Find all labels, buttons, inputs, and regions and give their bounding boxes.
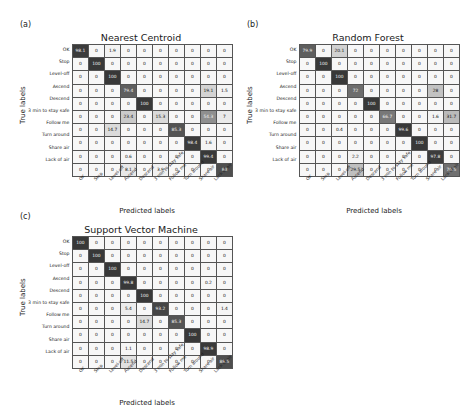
matrix-cell: 0 — [443, 137, 459, 150]
matrix-cell: 0 — [72, 71, 88, 84]
matrix-cell: 0 — [168, 250, 184, 263]
matrix-cell: 0 — [363, 71, 379, 84]
matrix-cell: 0 — [200, 329, 216, 342]
matrix-cell: 0 — [411, 45, 427, 58]
matrix-cell: 0.2 — [200, 276, 216, 289]
matrix-cell: 0 — [152, 237, 168, 250]
matrix-cell: 0 — [315, 124, 331, 137]
y-tick-a-8: Share air — [28, 142, 72, 154]
matrix-cell: 0 — [104, 250, 120, 263]
matrix-cell: 0 — [184, 237, 200, 250]
matrix-cell: 85.3 — [168, 124, 184, 137]
matrix-cell: 0 — [88, 263, 104, 276]
matrix-cell: 79.4 — [120, 84, 136, 97]
matrix-cell: 0 — [136, 263, 152, 276]
matrix-row: 001000000000 — [72, 71, 232, 84]
y-tick-a-3: Ascend — [28, 81, 72, 93]
matrix-cell: 0 — [216, 150, 232, 163]
matrix-cell: 0 — [104, 237, 120, 250]
matrix-cell: 0 — [411, 71, 427, 84]
matrix-cell: 100 — [104, 71, 120, 84]
matrix-cell: 0 — [168, 71, 184, 84]
matrix-cell: 0 — [200, 263, 216, 276]
matrix-cell: 0 — [88, 150, 104, 163]
matrix-cell: 0 — [299, 137, 315, 150]
matrix-cell: 0 — [443, 71, 459, 84]
y-tick-c-2: Level-off — [28, 260, 72, 272]
matrix-cell: 0 — [72, 342, 88, 355]
matrix-cell: 0 — [136, 45, 152, 58]
matrix-cell: 0 — [120, 97, 136, 110]
matrix-cell: 0 — [379, 71, 395, 84]
matrix-row: 000010000000 — [299, 97, 459, 110]
plot-wrap-a: Nearest Centroid True labels OKStopLevel… — [18, 31, 226, 215]
matrix-cell: 0 — [72, 84, 88, 97]
y-tick-labels-c: OKStopLevel-offAscendDescend3 min to sta… — [28, 236, 72, 358]
matrix-cell: 0 — [315, 150, 331, 163]
matrix-cell: 0 — [331, 150, 347, 163]
matrix-cell: 0 — [72, 150, 88, 163]
matrix-cell: 0 — [331, 97, 347, 110]
matrix-cell: 0 — [136, 342, 152, 355]
matrix-cell: 0 — [104, 150, 120, 163]
matrix-cell: 0 — [120, 124, 136, 137]
matrix-cell: 0 — [216, 329, 232, 342]
x-tick-labels-c: OKStopLevel-offAscendDescend3 min to sta… — [72, 369, 222, 399]
matrix-row: 000010000000 — [72, 97, 232, 110]
matrix-cell: 0 — [315, 97, 331, 110]
matrix-cell: 0 — [72, 58, 88, 71]
y-tick-a-2: Level-off — [28, 68, 72, 80]
y-tick-a-6: Follow me — [28, 117, 72, 129]
matrix-cell: 99.8 — [120, 276, 136, 289]
y-tick-c-7: Turn around — [28, 321, 72, 333]
matrix-cell: 0 — [88, 84, 104, 97]
matrix-cell: 0 — [152, 84, 168, 97]
matrix-cell: 0 — [152, 263, 168, 276]
matrix-cell: 0 — [152, 329, 168, 342]
matrix-cell: 0 — [88, 71, 104, 84]
matrix-cell: 0 — [315, 84, 331, 97]
matrix-cell: 0 — [443, 84, 459, 97]
panel-random-forest: (b) Random Forest True labels OKStopLeve… — [245, 20, 453, 215]
matrix-cell: 0 — [315, 111, 331, 124]
y-tick-a-4: Descend — [28, 93, 72, 105]
matrix-cell: 0 — [168, 303, 184, 316]
matrix-cell: 0 — [152, 124, 168, 137]
matrix-row: 0005.4093.20001.4 — [72, 303, 232, 316]
panel-support-vector-machine: (c) Support Vector Machine True labels O… — [18, 212, 226, 406]
plot-wrap-c: Support Vector Machine True labels OKSto… — [18, 223, 226, 406]
y-tick-b-8: Share air — [255, 142, 299, 154]
matrix-row: 000000010000 — [299, 137, 459, 150]
matrix-cell: 0 — [299, 84, 315, 97]
panel-nearest-centroid: (a) Nearest Centroid True labels OKStopL… — [18, 20, 226, 215]
y-tick-c-8: Share air — [28, 334, 72, 346]
matrix-cell: 23.4 — [120, 111, 136, 124]
matrix-cell: 0 — [88, 137, 104, 150]
matrix-cell: 93.2 — [152, 303, 168, 316]
matrix-cell: 0 — [411, 58, 427, 71]
matrix-cell: 0 — [88, 303, 104, 316]
matrix-cell: 100 — [331, 71, 347, 84]
matrix-cell: 0 — [347, 45, 363, 58]
matrix-cell: 0 — [152, 276, 168, 289]
matrix-row: 000014.7085.3000 — [72, 316, 232, 329]
matrix-cell: 0 — [427, 45, 443, 58]
matrix-row: 0014.700085.3000 — [72, 124, 232, 137]
matrix-cell: 0 — [88, 237, 104, 250]
matrix-cell: 14.7 — [136, 316, 152, 329]
matrix-cell: 0 — [315, 45, 331, 58]
matrix-cell: 0 — [72, 250, 88, 263]
matrix-cell: 0 — [184, 111, 200, 124]
matrix-cell: 0 — [120, 45, 136, 58]
matrix-cell: 0 — [152, 289, 168, 302]
y-tick-b-1: Stop — [255, 56, 299, 68]
matrix-cell: 0 — [200, 124, 216, 137]
matrix-cell: 0 — [427, 137, 443, 150]
matrix-cell: 0 — [363, 137, 379, 150]
matrix-row: 010000000000 — [299, 58, 459, 71]
matrix-cell: 0 — [168, 289, 184, 302]
matrix-cell: 0 — [443, 58, 459, 71]
matrix-cell: 0 — [136, 71, 152, 84]
matrix-cell: 0 — [363, 150, 379, 163]
matrix-cell: 31.7 — [443, 111, 459, 124]
